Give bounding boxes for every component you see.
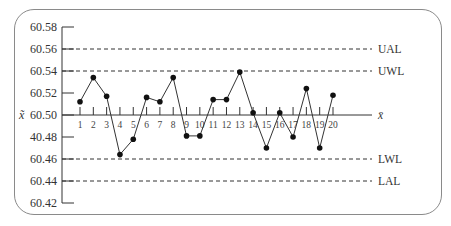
x-tick-label: 20 (328, 120, 338, 130)
reference-label: UWL (378, 65, 404, 77)
control-chart: 60.5860.5660.5460.5260.5040.4860.4660.44… (0, 0, 451, 226)
y-tick-label: 60.44 (30, 174, 57, 188)
x-tick-label: 7 (158, 120, 163, 130)
x-tick-label: 6 (144, 120, 149, 130)
data-point (104, 94, 110, 100)
data-line (80, 72, 333, 155)
data-point (130, 136, 136, 142)
data-point (224, 97, 230, 103)
x-tick-label: 12 (222, 120, 232, 130)
reference-label: LWL (378, 153, 402, 165)
data-point (264, 145, 270, 151)
data-point (330, 92, 336, 98)
x-tick-label: 2 (91, 120, 96, 130)
y-axis-label: x̃ (18, 108, 25, 122)
data-point (144, 95, 150, 101)
x-tick-label: 4 (118, 120, 123, 130)
data-point (210, 97, 216, 103)
data-point (157, 99, 163, 105)
data-point (277, 110, 283, 116)
data-point (197, 133, 203, 139)
data-point (290, 134, 296, 140)
x-tick-label: 8 (171, 120, 176, 130)
y-tick-label: 40.48 (30, 130, 57, 144)
x-tick-label: 5 (131, 120, 136, 130)
data-point (91, 75, 97, 81)
reference-label: UAL (378, 43, 402, 55)
x-tick-label: 15 (262, 120, 272, 130)
data-point (317, 145, 323, 151)
data-point (250, 110, 256, 116)
y-tick-label: 60.46 (30, 152, 57, 166)
x-tick-label: 3 (104, 120, 109, 130)
data-point (117, 152, 123, 158)
x-tick-label: 19 (315, 120, 325, 130)
y-tick-label: 60.54 (30, 64, 57, 78)
x-tick-label: 18 (302, 120, 312, 130)
y-tick-label: 60.56 (30, 42, 57, 56)
data-point (184, 133, 190, 139)
data-point (170, 75, 176, 81)
y-tick-label: 60.42 (30, 196, 57, 210)
data-point (77, 99, 83, 105)
data-point (237, 69, 243, 75)
reference-label: x̄ (377, 109, 384, 121)
x-tick-label: 1 (78, 120, 83, 130)
x-tick-label: 13 (235, 120, 245, 130)
y-tick-label: 60.50 (30, 108, 57, 122)
y-tick-label: 60.52 (30, 86, 57, 100)
x-tick-label: 11 (209, 120, 218, 130)
reference-label: LAL (378, 175, 400, 187)
y-tick-label: 60.58 (30, 20, 57, 34)
data-point (304, 86, 310, 92)
